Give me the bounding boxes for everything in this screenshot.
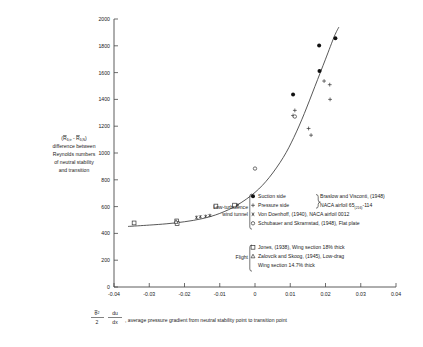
legend-marker-triangle (251, 254, 255, 258)
data-point-plus (328, 98, 332, 102)
data-point-star (199, 215, 202, 218)
y-axis-label-line5: and transition (59, 167, 90, 173)
data-point-plus (322, 79, 326, 83)
data-point-plus (307, 127, 311, 131)
x-tick-label: 0 (254, 291, 257, 297)
legend-entry-ref: NACA airfoil 65(216)-114 (320, 202, 372, 210)
x-axis-formula-numerator-2: du (112, 310, 118, 316)
legend-entry-text: Von Doenhoff, (1940), NACA airfoil 0012 (258, 211, 350, 217)
y-axis-label: (Rδ,tr - Rδ,N) difference between Reynol… (53, 135, 96, 173)
data-point-star (208, 214, 211, 217)
data-point-plus (309, 133, 313, 137)
y-axis-label-line1: (Rδ,tr - Rδ,N) (61, 135, 87, 142)
x-tick-label: 0.04 (391, 291, 401, 297)
x-tick-label: -0.03 (143, 291, 155, 297)
legend-entry-text: Zalovcik and Skoog, (1945), Low-drag (258, 253, 344, 259)
data-point-star (195, 216, 198, 219)
x-axis-formula-denominator-2: dx (112, 319, 118, 325)
legend-group-label-line2: wind tunnel (222, 211, 248, 217)
data-point-filled-circle (317, 43, 321, 47)
legend-marker-plus (251, 203, 255, 207)
x-tick-label: -0.04 (108, 291, 120, 297)
y-tick-label: 800 (101, 177, 110, 183)
data-point-filled-circle (291, 92, 295, 96)
legend-group-label-line1: Low-turbulence (213, 204, 248, 210)
series-pressure-side (291, 79, 332, 137)
x-tick-label: 0.03 (356, 291, 366, 297)
legend-marker-filled-circle (251, 194, 255, 198)
y-tick-label: 1600 (98, 70, 110, 76)
data-point-open-square (132, 221, 136, 225)
data-point-plus (293, 108, 297, 112)
figure-container: 0200400600800100012001400160018002000 -0… (0, 0, 423, 347)
y-tick-label: 1200 (98, 123, 110, 129)
data-point-star (204, 215, 207, 218)
legend-entry-text: Suction side (258, 193, 286, 199)
data-point-plus (328, 83, 332, 87)
data-point-open-circle (293, 115, 296, 118)
legend-marker-star (252, 213, 255, 216)
y-axis-label-line4: of neutral stability (54, 159, 94, 165)
x-axis-formula-numerator: θ2 (95, 310, 100, 316)
x-axis-label: θ2 2 du dx , average pressure gradient f… (91, 310, 288, 325)
y-tick-label: 1800 (98, 43, 110, 49)
fit-curve (128, 27, 339, 226)
legend-entry-text: Schubauer and Skramstad, (1948), Flat pl… (258, 220, 360, 226)
x-tick-label: -0.01 (214, 291, 226, 297)
legend: Low-turbulencewind tunnelSuction sideBra… (213, 193, 385, 271)
data-markers (132, 36, 337, 225)
legend-entry-ref: Braslow and Visconti, (1948) (320, 193, 385, 199)
legend-marker-open-square (251, 245, 255, 249)
legend-entry-text: Wing section 14.7% thick (258, 262, 315, 268)
legend-entry-text: Pressure side (258, 202, 289, 208)
y-tick-label: 0 (107, 284, 110, 290)
y-tick-label: 1400 (98, 96, 110, 102)
y-axis-label-line2: difference between (53, 143, 96, 149)
x-tick-label: 0.01 (285, 291, 295, 297)
data-point-open-circle (253, 167, 256, 170)
y-tick-label: 600 (101, 204, 110, 210)
x-axis-formula-denominator: 2 (96, 319, 99, 325)
series-schubauer-and-skramstad (253, 115, 296, 170)
x-tick-label: 0.02 (320, 291, 330, 297)
y-tick-label: 200 (101, 257, 110, 263)
legend-entry-text: Jones, (1938), Wing section 18% thick (258, 244, 345, 250)
y-tick-label: 1000 (98, 150, 110, 156)
x-axis-label-text: , average pressure gradient from neutral… (125, 317, 288, 323)
chart-svg: 0200400600800100012001400160018002000 -0… (0, 0, 423, 347)
y-axis-ticks: 0200400600800100012001400160018002000 (98, 16, 118, 290)
y-tick-label: 2000 (98, 16, 110, 22)
legend-group-label-flight: Flight (236, 254, 249, 260)
data-point-filled-circle (333, 36, 337, 40)
data-point-filled-circle (318, 69, 322, 73)
x-axis-ticks: -0.04-0.03-0.02-0.0100.010.020.030.04 (108, 283, 401, 297)
y-axis-label-line3: Reynolds numbers (53, 151, 96, 157)
x-tick-label: -0.02 (179, 291, 191, 297)
legend-marker-open-circle (251, 222, 254, 225)
y-tick-label: 400 (101, 230, 110, 236)
